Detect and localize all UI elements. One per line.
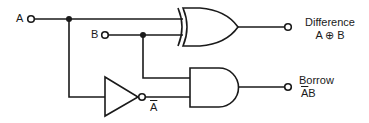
xor-back-curve	[178, 8, 182, 46]
output-difference: Difference A ⊕ B	[298, 17, 362, 41]
and-gate	[190, 68, 239, 107]
xor-gate	[183, 8, 238, 46]
difference-expression: A ⊕ B	[298, 30, 362, 41]
not-gate	[105, 77, 138, 116]
borrow-label: Borrow	[299, 75, 334, 86]
inverter-output-label: A	[150, 102, 157, 113]
inverter-bubble	[139, 94, 146, 101]
wire-a-to-inverter	[69, 19, 105, 97]
difference-label: Difference	[298, 17, 362, 28]
terminal-difference	[285, 24, 292, 31]
input-label-a: A	[16, 13, 23, 24]
wire-b-to-and	[143, 35, 190, 78]
terminal-borrow	[285, 84, 292, 91]
borrow-expression: AB	[299, 88, 334, 99]
borrow-expression-b: B	[308, 87, 315, 99]
output-borrow: Borrow AB	[299, 75, 334, 99]
terminal-b	[102, 32, 109, 39]
terminal-a	[28, 16, 35, 23]
junction-a	[66, 16, 72, 22]
input-label-b: B	[91, 29, 98, 40]
junction-b	[140, 32, 146, 38]
